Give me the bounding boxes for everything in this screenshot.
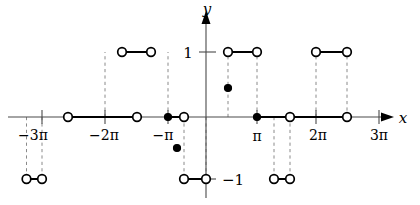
open-point [343,113,352,122]
axes-group [8,11,394,198]
tick-label-y-pos1: 1 [183,44,193,62]
open-point [180,113,189,122]
axis-labels: x y [202,0,408,127]
open-point [22,175,31,184]
x-axis-arrowhead [381,113,394,122]
tick-label-neg3pi: −3π [18,127,48,143]
step-function-plot: x y −3π −2π −π π 2π 3π 1 −1 [0,0,420,205]
open-point [343,48,352,57]
open-endpoints [22,48,351,184]
open-point [118,48,127,57]
tick-label-neg2pi: −2π [89,127,119,143]
y-axis-label: y [202,0,212,18]
tick-label-pi: π [252,128,261,144]
open-point [253,48,262,57]
open-point [312,48,321,57]
open-point [38,175,47,184]
open-point [147,48,156,57]
plot-svg: x y −3π −2π −π π 2π 3π 1 −1 [0,0,420,205]
open-point [180,175,189,184]
open-point [202,175,211,184]
filled-point [254,114,261,121]
tick-label-negpi: −π [153,127,174,143]
open-point [224,48,233,57]
tick-label-2pi: 2π [309,127,327,143]
tick-label-y-neg1: −1 [222,171,244,189]
open-point [133,113,142,122]
x-axis-label: x [399,109,408,127]
tick-marks [42,52,379,179]
open-point [64,113,73,122]
filled-point [225,85,232,92]
open-point [286,175,295,184]
filled-point [174,145,181,152]
open-point [270,175,279,184]
filled-point [165,114,172,121]
open-point [286,113,295,122]
tick-label-3pi: 3π [370,127,388,143]
